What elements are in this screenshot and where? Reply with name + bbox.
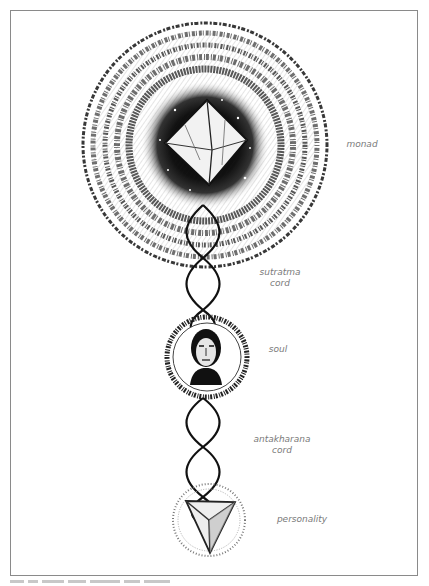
label-antakharana-line2: cord	[232, 445, 332, 456]
soul-medallion	[167, 317, 247, 397]
figure-caption-truncated	[10, 580, 200, 586]
label-sutratma-line1: sutratma	[240, 267, 320, 278]
label-personality: personality	[262, 514, 342, 525]
tetrahedron-icon	[186, 501, 235, 553]
esoteric-diagram	[0, 0, 429, 586]
head-icon	[190, 329, 222, 385]
label-monad: monad	[332, 139, 392, 150]
personality-medallion	[173, 484, 245, 556]
label-antakharana-cord: antakharana cord	[232, 434, 332, 456]
label-soul: soul	[258, 344, 298, 355]
label-antakharana-line1: antakharana	[232, 434, 332, 445]
label-sutratma-line2: cord	[240, 278, 320, 289]
label-sutratma-cord: sutratma cord	[240, 267, 320, 289]
